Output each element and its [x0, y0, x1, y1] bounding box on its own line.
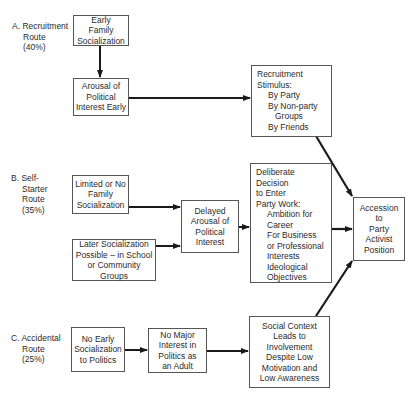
box-heading: Recruitment: [257, 69, 303, 80]
route-a-line-2: Route: [12, 32, 68, 43]
box-text: Interest in: [159, 340, 196, 351]
box-text: Social Context: [262, 321, 317, 332]
box-early-family-socialization: Early Family Socialization: [73, 15, 129, 46]
list-item: By Friends: [257, 122, 309, 133]
box-no-major-interest: No Major Interest in Politics as an Adul…: [148, 328, 207, 373]
box-text: to: [375, 213, 382, 224]
box-delayed-arousal: Delayed Arousal of Political Interest: [181, 200, 239, 253]
box-text: Political: [86, 92, 115, 103]
box-text: Limited or No: [75, 179, 126, 190]
route-c-line-1: C. Accidental: [11, 333, 61, 344]
list-item: or Professional: [256, 241, 324, 252]
box-limited-family-socialization: Limited or No Family Socialization: [72, 175, 129, 214]
box-text: Family: [88, 25, 113, 36]
list-item: Ideological: [256, 262, 308, 273]
box-text: Arousal of: [191, 216, 229, 227]
box-text: Delayed: [194, 206, 225, 217]
box-heading: Deliberate Decision: [256, 167, 326, 188]
box-no-early-socialization: No Early Socialization to Politics: [71, 327, 125, 372]
list-item: For Business: [256, 230, 317, 241]
box-accession-party-activist: Accession to Party Activist Position: [353, 197, 405, 261]
box-text: Later Socialization: [79, 239, 148, 250]
box-text: Family: [88, 189, 113, 200]
box-text: Interest: [196, 237, 224, 248]
route-b-line-1: B. Self-: [11, 173, 48, 184]
list-item: Objectives: [256, 272, 307, 283]
box-text: Socialization: [77, 200, 125, 211]
box-later-socialization: Later Socialization Possible – in School…: [72, 239, 156, 281]
route-c-line-2: Route: [11, 344, 61, 355]
box-arousal-political-interest-early: Arousal of Political Interest Early: [73, 78, 129, 116]
route-label-b: B. Self- Starter Route (35%): [11, 173, 48, 215]
route-label-c: C. Accidental Route (25%): [11, 333, 61, 365]
box-deliberate-decision: Deliberate Decision to Enter Party Work:…: [250, 163, 332, 283]
route-c-line-3: (25%): [11, 354, 61, 365]
box-text: Political: [195, 227, 224, 238]
box-text: Despite Low: [266, 352, 313, 363]
box-heading: Stimulus:: [257, 80, 292, 91]
list-item: Career: [256, 220, 293, 231]
box-text: Accession: [360, 203, 399, 214]
box-social-context: Social Context Leads to Involvement Desp…: [249, 316, 330, 388]
route-b-line-3: Route: [11, 194, 48, 205]
box-text: Politics as: [158, 351, 196, 362]
route-a-line-3: (40%): [12, 42, 68, 53]
box-text: Interest Early: [76, 102, 126, 113]
box-heading: to Enter: [256, 188, 286, 199]
box-text: or Community Groups: [73, 260, 155, 281]
list-item: By Non-party: [257, 101, 318, 112]
box-text: No Early: [82, 334, 115, 345]
route-a-line-1: A. Recruitment: [12, 21, 68, 32]
box-text: Leads to Involvement: [250, 331, 329, 352]
route-label-a: A. Recruitment Route (40%): [12, 21, 68, 53]
box-text: an Adult: [162, 361, 193, 372]
box-text: Socialization: [77, 36, 125, 47]
box-recruitment-stimulus: Recruitment Stimulus: By Party By Non-pa…: [251, 65, 332, 137]
route-b-line-2: Starter: [11, 184, 48, 195]
box-text: Activist: [366, 234, 393, 245]
list-item: Groups: [257, 111, 303, 122]
box-text: Possible – in School: [76, 250, 153, 261]
box-text: Low Awareness: [260, 373, 319, 384]
list-item: Ambition for: [256, 209, 312, 220]
box-text: to Politics: [80, 355, 116, 366]
list-item: Interests: [256, 251, 300, 262]
box-text: No Major: [160, 330, 194, 341]
box-text: Early: [91, 15, 110, 26]
list-item: By Party: [257, 90, 300, 101]
box-text: Socialization: [74, 344, 122, 355]
box-text: Motivation and: [262, 363, 317, 374]
box-heading: Party Work:: [256, 199, 300, 210]
box-text: Position: [364, 245, 394, 256]
route-b-line-4: (35%): [11, 205, 48, 216]
box-text: Arousal of: [82, 81, 120, 92]
box-text: Party: [369, 224, 389, 235]
